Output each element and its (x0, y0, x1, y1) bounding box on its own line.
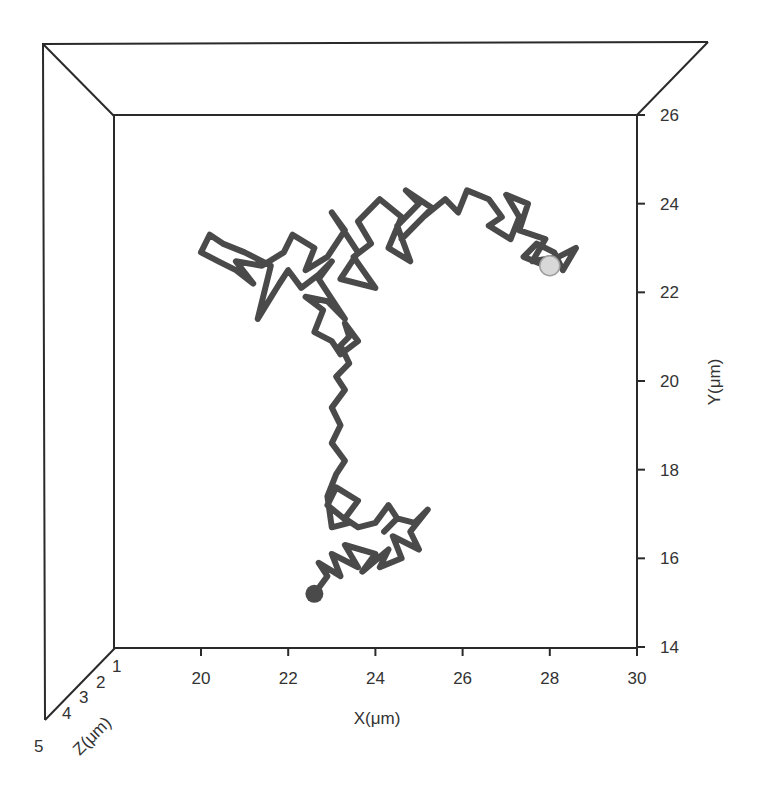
x-tick-label: 30 (628, 669, 647, 688)
z-tick-label: 5 (34, 737, 43, 756)
x-axis-ticks: 202224262830 (192, 648, 647, 688)
x-tick-label: 24 (366, 669, 385, 688)
y-tick-label: 22 (660, 283, 679, 302)
x-tick-label: 26 (453, 669, 472, 688)
z-tick-label: 4 (62, 704, 71, 723)
y-tick-label: 14 (660, 638, 679, 657)
z-tick-label: 1 (112, 657, 121, 676)
z-tick-label: 3 (79, 688, 88, 707)
trajectory-line (201, 190, 576, 593)
y-axis-label: Y(μm) (705, 359, 724, 406)
y-tick-label: 16 (660, 549, 679, 568)
x-tick-label: 28 (540, 669, 559, 688)
plot-area-border (114, 115, 637, 648)
y-tick-label: 24 (660, 195, 679, 214)
frame-edge-top-right (637, 42, 708, 115)
y-tick-label: 26 (660, 106, 679, 125)
frame-edge-top-left (43, 44, 114, 116)
x-tick-label: 22 (279, 669, 298, 688)
z-axis-label: Z(μm) (69, 713, 115, 759)
y-axis-ticks: 26242220181614 (637, 106, 679, 657)
trajectory-end-marker (540, 256, 560, 276)
x-tick-label: 20 (192, 669, 211, 688)
y-tick-label: 20 (660, 372, 679, 391)
y-tick-label: 18 (660, 461, 679, 480)
trajectory-start-marker (305, 585, 323, 603)
z-tick-label: 2 (96, 673, 105, 692)
trajectory-3d-plot: 202224262830 26242220181614 12345 X(μm) … (0, 0, 762, 794)
x-axis-label: X(μm) (354, 709, 401, 728)
outer-back-frame (43, 42, 708, 720)
trajectory-series (201, 190, 576, 602)
plot-frame (43, 42, 708, 720)
